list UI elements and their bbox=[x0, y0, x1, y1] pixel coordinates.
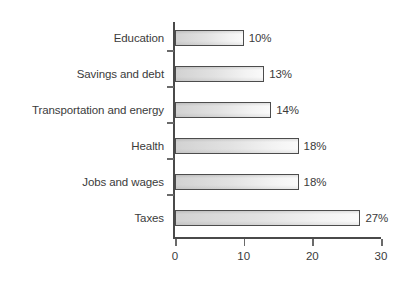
bar-value-label: 18% bbox=[304, 138, 327, 154]
value-axis-tick bbox=[312, 239, 314, 246]
bar-health bbox=[175, 138, 299, 154]
value-axis-tick bbox=[381, 239, 383, 246]
bar-value-label: 14% bbox=[276, 102, 299, 118]
bar-jobs-and-wages bbox=[175, 174, 299, 190]
value-axis-tick-label: 10 bbox=[224, 249, 264, 263]
bar-education bbox=[175, 30, 244, 46]
bar-value-label: 13% bbox=[269, 66, 292, 82]
bar-row: Savings and debt 13% bbox=[0, 58, 413, 94]
category-label: Health bbox=[0, 139, 164, 153]
value-axis-tick-label: 0 bbox=[155, 249, 195, 263]
value-axis-tick bbox=[175, 239, 177, 246]
bar-value-label: 10% bbox=[249, 30, 272, 46]
category-label: Education bbox=[0, 31, 164, 45]
bar-row: Jobs and wages 18% bbox=[0, 166, 413, 202]
category-label: Taxes bbox=[0, 211, 164, 225]
bar-chart: Education 10% Savings and debt 13% Trans… bbox=[0, 0, 413, 292]
bar-row: Health 18% bbox=[0, 130, 413, 166]
bar-transportation-and-energy bbox=[175, 102, 271, 118]
value-axis-tick bbox=[244, 239, 246, 246]
bar-row: Taxes 27% bbox=[0, 202, 413, 238]
bar-row: Transportation and energy 14% bbox=[0, 94, 413, 130]
category-label: Jobs and wages bbox=[0, 175, 164, 189]
bar-taxes bbox=[175, 210, 360, 226]
category-label: Savings and debt bbox=[0, 67, 164, 81]
bar-row: Education 10% bbox=[0, 22, 413, 58]
bar-value-label: 27% bbox=[365, 210, 388, 226]
value-axis-tick-label: 30 bbox=[361, 249, 401, 263]
bar-value-label: 18% bbox=[304, 174, 327, 190]
value-axis-tick-label: 20 bbox=[292, 249, 332, 263]
category-label: Transportation and energy bbox=[0, 103, 164, 117]
bar-savings-and-debt bbox=[175, 66, 264, 82]
